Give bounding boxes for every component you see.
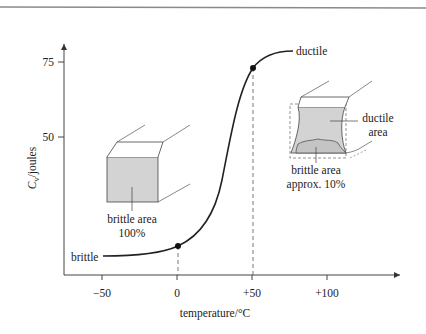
point-marker-50 <box>250 65 256 71</box>
point-marker-0 <box>175 243 181 249</box>
x-axis-label: temperature/°C <box>180 307 251 320</box>
right-specimen: ductile area brittle area approx. 10% <box>287 81 394 191</box>
x-tick-label-minus50: −50 <box>93 287 111 299</box>
left-specimen: brittle area 100% <box>107 125 190 239</box>
x-tick-label-0: 0 <box>174 287 180 299</box>
y-axis-label: Cv/joules <box>26 146 41 189</box>
y-tick-label-50: 50 <box>43 131 55 143</box>
right-caption-line1: brittle area <box>291 164 340 176</box>
top-rule <box>0 7 426 8</box>
y-tick-label-75: 75 <box>43 56 55 68</box>
x-axis: −50 0 +50 +100 temperature/°C <box>64 275 400 320</box>
ductile-area-label-line2: area <box>368 126 387 138</box>
x-tick-label-100: +100 <box>315 287 339 299</box>
ductile-area-label-line1: ductile <box>362 112 393 124</box>
ductile-label: ductile <box>296 45 327 57</box>
right-caption-line2: approx. 10% <box>287 178 346 191</box>
ductile-brittle-transition-diagram: 75 50 Cv/joules −50 0 +50 +100 temperatu… <box>0 0 426 334</box>
brittle-label: brittle <box>71 251 98 263</box>
left-caption-line2: 100% <box>119 227 146 239</box>
y-axis: 75 50 Cv/joules <box>26 44 64 275</box>
left-caption-line1: brittle area <box>107 213 156 225</box>
x-tick-label-50: +50 <box>243 287 261 299</box>
